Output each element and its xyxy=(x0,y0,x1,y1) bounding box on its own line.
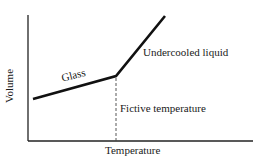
fictive-temperature-label: Fictive temperature xyxy=(120,102,206,114)
y-axis-label: Volume xyxy=(3,69,15,103)
undercooled-liquid-label: Undercooled liquid xyxy=(143,46,228,58)
volume-temperature-diagram xyxy=(0,0,260,163)
x-axis-label: Temperature xyxy=(105,144,160,156)
